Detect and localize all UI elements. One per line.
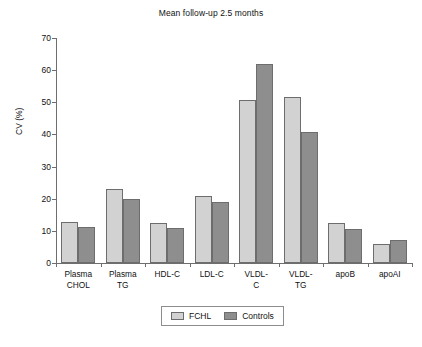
y-tick-label: 20: [42, 194, 51, 204]
category-label-6: apoB: [323, 269, 368, 280]
bar-controls-7: [390, 240, 407, 263]
y-tick-mark: [52, 167, 56, 168]
y-tick-label: 10: [42, 226, 51, 236]
chart-legend: FCHL Controls: [161, 306, 284, 326]
y-tick-mark: [52, 70, 56, 71]
bar-fchl-4: [239, 100, 256, 263]
legend-label-fchl: FCHL: [189, 311, 211, 321]
category-label-4: VLDL- C: [234, 269, 279, 290]
y-tick-mark: [52, 134, 56, 135]
y-axis-title: CV (%): [14, 108, 24, 135]
bar-fchl-6: [328, 223, 345, 263]
y-axis-line: [56, 38, 57, 264]
bar-controls-1: [123, 199, 140, 263]
category-label-7: apoAI: [368, 269, 413, 280]
bar-controls-5: [301, 132, 318, 263]
y-tick-label: 0: [46, 258, 51, 268]
y-tick-mark: [52, 231, 56, 232]
category-label-1: Plasma TG: [101, 269, 146, 290]
legend-entry-controls: Controls: [224, 311, 274, 321]
bar-fchl-1: [106, 189, 123, 263]
legend-label-controls: Controls: [242, 311, 274, 321]
bar-fchl-7: [373, 244, 390, 263]
y-tick-label: 30: [42, 162, 51, 172]
x-tick-mark: [323, 263, 324, 267]
y-tick-mark: [52, 102, 56, 103]
x-tick-mark: [234, 263, 235, 267]
bar-controls-2: [167, 228, 184, 263]
category-label-0: Plasma CHOL: [56, 269, 101, 290]
legend-swatch-controls: [224, 312, 237, 320]
bar-controls-6: [345, 229, 362, 263]
x-tick-mark: [190, 263, 191, 267]
y-tick-mark: [52, 38, 56, 39]
bar-chart: Mean follow-up 2.5 months CV (%) 0102030…: [0, 0, 422, 347]
category-label-2: HDL-C: [145, 269, 190, 280]
bar-controls-4: [256, 64, 273, 263]
bar-fchl-2: [150, 223, 167, 264]
category-label-5: VLDL- TG: [279, 269, 324, 290]
plot-area: 010203040506070 Plasma CHOLPlasma TGHDL-…: [56, 38, 412, 263]
bar-controls-3: [212, 202, 229, 263]
y-tick-label: 40: [42, 129, 51, 139]
x-tick-mark: [279, 263, 280, 267]
y-tick-label: 70: [42, 33, 51, 43]
bar-fchl-5: [284, 97, 301, 264]
cut-off-caption: [6, 339, 306, 347]
chart-title: Mean follow-up 2.5 months: [0, 8, 422, 18]
legend-entry-fchl: FCHL: [171, 311, 211, 321]
y-tick-mark: [52, 199, 56, 200]
x-tick-mark: [56, 263, 57, 267]
x-tick-mark: [368, 263, 369, 267]
y-tick-label: 60: [42, 65, 51, 75]
x-tick-mark: [101, 263, 102, 267]
bar-fchl-0: [61, 222, 78, 263]
legend-swatch-fchl: [171, 312, 184, 320]
x-tick-mark: [412, 263, 413, 267]
bar-controls-0: [78, 227, 95, 263]
bar-fchl-3: [195, 196, 212, 263]
category-label-3: LDL-C: [190, 269, 235, 280]
y-tick-label: 50: [42, 97, 51, 107]
x-tick-mark: [145, 263, 146, 267]
